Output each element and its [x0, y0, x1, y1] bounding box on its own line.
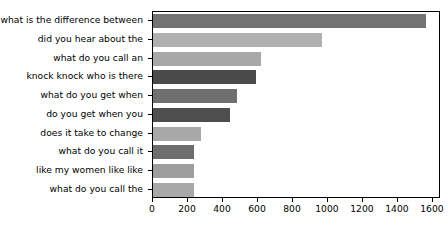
- x-axis-tick-label: 1600: [420, 203, 443, 214]
- y-axis-tick-mark: [148, 189, 152, 190]
- plot-area: [152, 11, 440, 198]
- y-axis-tick-label: what do you get when: [41, 88, 144, 102]
- x-axis-tick-mark: [432, 198, 433, 202]
- x-axis-tick-mark: [152, 198, 153, 202]
- x-axis-tick-label: 0: [149, 203, 155, 214]
- y-axis-tick-label: like my women like like: [36, 163, 143, 177]
- bar: [153, 164, 194, 178]
- x-axis-tick-label: 1400: [385, 203, 408, 214]
- y-axis-tick-mark: [148, 151, 152, 152]
- y-axis-tick-label: knock knock who is there: [26, 69, 143, 83]
- x-axis-tick-label: 200: [178, 203, 196, 214]
- bar: [153, 145, 194, 159]
- bar: [153, 183, 194, 197]
- x-axis-tick-mark: [222, 198, 223, 202]
- bar-chart-figure: what is the difference betweendid you he…: [0, 0, 448, 229]
- y-axis-labels: what is the difference betweendid you he…: [0, 11, 148, 198]
- x-axis-tick-label: 600: [248, 203, 266, 214]
- x-axis-tick-label: 1000: [315, 203, 338, 214]
- y-axis-tick-label: do you get when you: [46, 107, 143, 121]
- x-axis-tick-mark: [397, 198, 398, 202]
- bar: [153, 33, 322, 47]
- bar: [153, 127, 201, 141]
- y-axis-tick-mark: [148, 20, 152, 21]
- x-axis-tick-mark: [292, 198, 293, 202]
- y-axis-tick-mark: [148, 58, 152, 59]
- x-axis-tick-mark: [327, 198, 328, 202]
- y-axis-tick-mark: [148, 170, 152, 171]
- x-axis-tick-mark: [187, 198, 188, 202]
- y-axis-tick-mark: [148, 114, 152, 115]
- y-axis-tick-label: did you hear about the: [38, 32, 143, 46]
- bar: [153, 70, 256, 84]
- y-axis-tick-label: what is the difference between: [0, 13, 143, 27]
- y-axis-tick-label: what do you call the: [50, 182, 143, 196]
- y-axis-tick-label: what do you call it: [58, 144, 143, 158]
- bar-series: [153, 12, 439, 197]
- x-axis-tick-label: 1200: [350, 203, 373, 214]
- bar: [153, 52, 261, 66]
- y-axis-tick-label: does it take to change: [40, 126, 143, 140]
- y-axis-tick-mark: [148, 95, 152, 96]
- y-axis-tick-mark: [148, 39, 152, 40]
- y-axis-tick-mark: [148, 133, 152, 134]
- x-axis-tick-label: 800: [283, 203, 301, 214]
- x-axis-tick-mark: [257, 198, 258, 202]
- x-axis-tick-label: 400: [213, 203, 231, 214]
- bar: [153, 89, 237, 103]
- bar: [153, 108, 230, 122]
- y-axis-tick-mark: [148, 76, 152, 77]
- y-axis-tick-label: what do you call an: [53, 51, 143, 65]
- bar: [153, 14, 426, 28]
- x-axis-tick-mark: [362, 198, 363, 202]
